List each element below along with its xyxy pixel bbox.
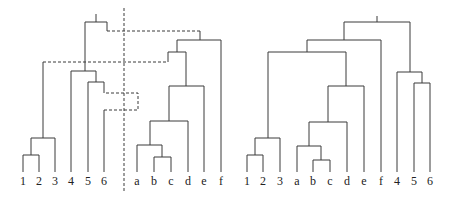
leaf-label: e [361,174,366,188]
leaf-label: 4 [68,174,74,188]
left-tree-letters [137,40,221,172]
leaf-label: 1 [244,174,250,188]
leaf-label: 3 [277,174,283,188]
merge-a-bc [297,146,321,172]
leaf-label: a [294,174,300,188]
leaf-label: 5 [411,174,417,188]
leaf-label: d [344,174,350,188]
merge-f [177,40,221,172]
merge-abc-d [309,122,347,172]
merge-123-abcde [268,52,346,138]
merge-1-2 [23,155,39,172]
left-dendrogram: 1 2 3 4 5 6 a b c d e f [20,8,223,192]
leaf-label: c [168,174,173,188]
leaf-label: 2 [260,174,266,188]
merge-4-56 [397,72,422,172]
merge-abcde-123 [168,52,186,86]
left-leaf-labels: 1 2 3 4 5 6 a b c d e f [20,174,223,188]
merge-abcd-e [169,86,204,172]
leaf-label: e [201,174,206,188]
leaf-label: 3 [52,174,58,188]
leaf-label: f [379,174,383,188]
right-dendrogram: 1 2 3 a b c d e f 4 5 6 [244,16,433,188]
leaf-label: 5 [85,174,91,188]
leaf-label: c [327,174,332,188]
right-leaf-labels: 1 2 3 a b c d e f 4 5 6 [244,174,433,188]
merge-abcd-e [328,86,364,172]
leaf-label: 1 [20,174,26,188]
leaf-label: b [151,174,157,188]
merge-5-6 [414,83,430,172]
leaf-label: 6 [101,174,107,188]
leaf-label: f [219,174,223,188]
merge-f [307,40,381,172]
dendrogram-figure: 1 2 3 4 5 6 a b c d e f 1 2 3 [0,0,450,197]
left-tree-numbers [23,14,200,172]
leaf-label: 6 [427,174,433,188]
merge-abc-d [150,121,188,172]
merge-a-bc [137,145,162,172]
merge-b-c [313,160,330,172]
leaf-label: d [185,174,191,188]
merge-4-56 [71,71,96,82]
leaf-label: 4 [394,174,400,188]
leaf-label: b [310,174,316,188]
leaf-label: 2 [36,174,42,188]
merge-1-2 [247,155,263,172]
root-merge [344,22,410,72]
root-left [85,22,107,31]
merge-b-c [154,157,171,172]
leaf-label: a [134,174,140,188]
dashed-link-6 [104,93,138,110]
